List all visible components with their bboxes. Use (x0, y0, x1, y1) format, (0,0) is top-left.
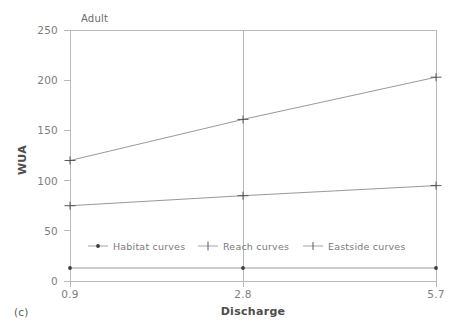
legend-label-eastside: Eastside curves (328, 241, 406, 252)
series-habitat-curves (68, 266, 438, 270)
legend-item-eastside-curves[interactable]: Eastside curves (303, 241, 406, 252)
series-markers-eastside (65, 73, 442, 164)
series-markers-reach (65, 182, 442, 210)
legend-label-reach: Reach curves (223, 241, 289, 252)
x-axis-ticks (70, 281, 436, 287)
marker-habitat-0 (68, 266, 72, 270)
chart-legend: Habitat curves Reach curves Eastside cur… (88, 241, 406, 252)
x-tick-label-5-7: 5.7 (427, 288, 444, 300)
chart-svg: 0 50 100 150 200 250 0.9 2.8 5.7 Adult W… (0, 0, 467, 327)
legend-label-habitat: Habitat curves (113, 241, 185, 252)
chart-title: Adult (81, 13, 108, 24)
y-tick-label-0: 0 (51, 275, 58, 287)
series-line-eastside (70, 77, 436, 160)
x-tick-labels: 0.9 2.8 5.7 (61, 288, 444, 300)
y-tick-label-150: 150 (37, 124, 58, 136)
marker-habitat-1 (241, 266, 245, 270)
series-reach-curves (65, 182, 442, 210)
y-axis-ticks (64, 30, 70, 281)
figure-panel-c: 0 50 100 150 200 250 0.9 2.8 5.7 Adult W… (0, 0, 467, 327)
x-tick-label-2-8: 2.8 (234, 288, 251, 300)
series-line-reach (70, 186, 436, 206)
x-tick-label-0-9: 0.9 (61, 288, 78, 300)
marker-habitat-2 (434, 266, 438, 270)
legend-item-habitat-curves[interactable]: Habitat curves (88, 241, 185, 252)
legend-item-reach-curves[interactable]: Reach curves (198, 241, 289, 252)
panel-label: (c) (14, 306, 29, 318)
legend-marker-dot-icon (96, 244, 100, 248)
y-tick-label-50: 50 (44, 225, 58, 237)
y-tick-label-200: 200 (37, 74, 58, 86)
x-axis-label: Discharge (221, 305, 286, 318)
y-axis-label: WUA (16, 145, 29, 175)
y-tick-labels: 0 50 100 150 200 250 (37, 24, 58, 287)
series-eastside-curves (65, 73, 442, 164)
y-tick-label-100: 100 (37, 175, 58, 187)
y-tick-label-250: 250 (37, 24, 58, 36)
